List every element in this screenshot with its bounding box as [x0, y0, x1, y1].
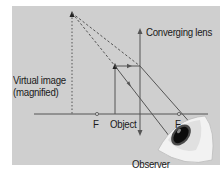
lens-arrow-top-icon: [138, 28, 143, 34]
lens-arrow-bottom-icon: [138, 130, 143, 136]
virtual-image-sublabel: (magnified): [13, 86, 59, 98]
virtual-ray-1: [72, 13, 140, 66]
focal-point-left-icon: [95, 112, 98, 115]
observer-label: Observer: [132, 158, 170, 170]
focal-label-left: F: [93, 118, 99, 130]
virtual-ray-2: [72, 13, 115, 66]
focal-point-right-icon: [177, 112, 180, 115]
observer-eye-icon: [158, 116, 213, 162]
lens-label: Converging lens: [146, 26, 212, 38]
object-label: Object: [110, 118, 136, 130]
virtual-image-label: Virtual image: [13, 74, 66, 86]
focal-label-right: F: [175, 118, 181, 130]
